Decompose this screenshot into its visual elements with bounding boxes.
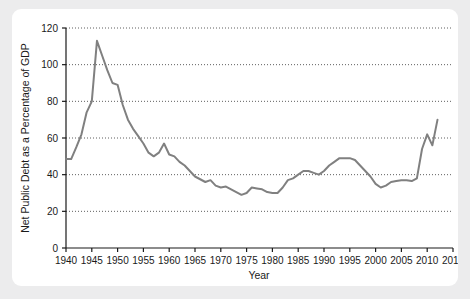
y-tick-label: 80 bbox=[47, 96, 59, 107]
x-tick-label: 1955 bbox=[132, 255, 155, 266]
y-tick-label: 0 bbox=[52, 243, 58, 254]
x-tick-label: 1980 bbox=[261, 255, 284, 266]
x-tick-label: 1945 bbox=[81, 255, 104, 266]
x-tick-label: 1960 bbox=[158, 255, 181, 266]
x-axis-title: Year bbox=[248, 269, 270, 281]
y-tick-label: 40 bbox=[47, 169, 59, 180]
gridlines bbox=[66, 28, 453, 211]
y-tick-label: 100 bbox=[41, 59, 58, 70]
x-tick-label: 1950 bbox=[106, 255, 129, 266]
debt-series-line bbox=[66, 41, 438, 195]
y-tick-label: 60 bbox=[47, 133, 59, 144]
x-axis-ticks bbox=[66, 248, 453, 252]
y-tick-label: 120 bbox=[41, 23, 58, 34]
y-axis-title: Net Public Debt as a Percentage of GDP bbox=[19, 43, 31, 233]
x-tick-label: 1995 bbox=[339, 255, 362, 266]
x-axis-tick-labels: 1940194519501955196019651970197519801985… bbox=[55, 255, 458, 266]
x-tick-label: 1985 bbox=[287, 255, 310, 266]
axis-lines bbox=[66, 28, 453, 248]
x-tick-label: 2010 bbox=[416, 255, 439, 266]
x-tick-label: 2015 bbox=[442, 255, 458, 266]
line-chart: 020406080100120 194019451950195519601965… bbox=[12, 9, 458, 286]
x-tick-label: 1965 bbox=[184, 255, 207, 266]
x-tick-label: 2005 bbox=[390, 255, 413, 266]
x-tick-label: 1990 bbox=[313, 255, 336, 266]
x-tick-label: 1940 bbox=[55, 255, 78, 266]
x-tick-label: 2000 bbox=[364, 255, 387, 266]
y-axis-tick-labels: 020406080100120 bbox=[41, 23, 58, 254]
y-tick-label: 20 bbox=[47, 206, 59, 217]
figure-card: 020406080100120 194019451950195519601965… bbox=[12, 9, 458, 286]
x-tick-label: 1975 bbox=[235, 255, 258, 266]
x-tick-label: 1970 bbox=[210, 255, 233, 266]
